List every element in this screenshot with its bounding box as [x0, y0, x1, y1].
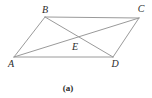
parallelogram-diagram: A B C D E (a) [0, 0, 152, 98]
figure-caption: (a) [63, 83, 74, 93]
vertex-label-d: D [110, 58, 119, 69]
vertex-label-b: B [42, 4, 48, 15]
vertex-label-a: A [7, 58, 15, 69]
side-bc [45, 17, 139, 18]
vertex-label-e: E [71, 41, 78, 52]
vertex-label-c: C [138, 3, 145, 14]
side-cd [113, 18, 139, 57]
vertex-labels: A B C D E [7, 3, 145, 69]
geometry-figure: A B C D E (a) [0, 0, 152, 98]
diagonal-bd [45, 17, 113, 57]
side-ab [14, 17, 45, 57]
